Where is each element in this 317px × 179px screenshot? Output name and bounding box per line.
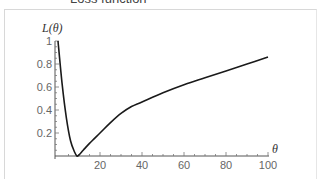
x-tick-label: 20 — [94, 159, 106, 171]
x-tick-label: 100 — [259, 159, 277, 171]
y-tick-label: 1 — [46, 35, 52, 47]
y-tick-label: 0.4 — [37, 104, 52, 116]
y-tick-label: 0.8 — [37, 58, 52, 70]
axes — [55, 41, 269, 159]
x-tick-label: 40 — [136, 159, 148, 171]
tick-labels: 204060801000.20.40.60.81 — [37, 35, 277, 171]
line-chart: 204060801000.20.40.60.81 L(θ) θ — [0, 0, 317, 179]
x-tick-label: 80 — [220, 159, 232, 171]
y-tick-label: 0.2 — [37, 127, 52, 139]
loss-curve — [58, 41, 268, 156]
x-axis-label: θ — [272, 142, 278, 156]
ticks — [55, 41, 268, 156]
y-axis-label: L(θ) — [41, 21, 63, 35]
y-tick-label: 0.6 — [37, 81, 52, 93]
x-tick-label: 60 — [178, 159, 190, 171]
